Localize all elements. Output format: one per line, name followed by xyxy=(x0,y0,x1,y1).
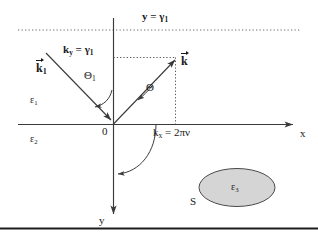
epsilon3-label-sub: 3 xyxy=(235,186,238,193)
incident-vector-label-sub: 1 xyxy=(43,67,47,76)
x-axis-label: x xyxy=(300,128,306,139)
gamma1-line-label-sub: 1 xyxy=(164,15,168,24)
kx-label: kx = 2πν xyxy=(153,127,190,139)
epsilon1-label: ε1 xyxy=(30,95,38,106)
ky-label: ky = γ1 xyxy=(63,44,94,56)
x-axis-label-text: x xyxy=(300,127,306,139)
theta1-label-text: Θ xyxy=(84,69,92,81)
outgoing-vector-label: k xyxy=(181,55,188,67)
y-axis-label: y xyxy=(99,215,105,226)
gamma1-line-label-text: y = γ xyxy=(142,10,164,22)
epsilon2-label-sub: 2 xyxy=(34,138,37,145)
theta-label-text: Θ xyxy=(146,81,154,93)
incident-vector-label: k1 xyxy=(36,62,47,76)
origin-label-text: 0 xyxy=(102,125,108,137)
theta-label: Θ xyxy=(146,82,154,93)
theta1-arc-arrow xyxy=(95,90,112,107)
theta1-label: Θ1 xyxy=(84,70,96,82)
ky-label-rhs-sub: 1 xyxy=(90,48,94,57)
y-axis-label-text: y xyxy=(99,214,105,226)
gamma1-line-label: y = γ1 xyxy=(142,11,168,23)
diagram-canvas xyxy=(0,0,318,237)
theta-sweep-arc xyxy=(118,124,156,174)
origin-label: 0 xyxy=(102,126,108,137)
outgoing-wave-vector xyxy=(114,60,176,124)
epsilon2-label: ε2 xyxy=(30,134,38,145)
vector-arrow-head-icon xyxy=(41,58,44,62)
incident-wave-vector xyxy=(46,53,111,120)
ky-label-rhs: = γ xyxy=(73,43,90,55)
vector-arrow-head-icon xyxy=(186,51,189,55)
physics-figure: y = γ1 ky = γ1 k1 Θ1 k Θ ε1 ε2 0 kx = 2π… xyxy=(0,0,318,237)
incident-vector-glyph: k xyxy=(36,62,43,74)
theta1-label-sub: 1 xyxy=(92,74,96,83)
region-s-label-text: S xyxy=(190,195,196,207)
outgoing-vector-label-text: k xyxy=(181,54,188,68)
outgoing-vector-glyph: k xyxy=(181,55,188,67)
kx-label-rhs: = 2πν xyxy=(162,126,190,138)
incident-vector-label-text: k xyxy=(36,61,43,75)
region-s-label: S xyxy=(190,196,196,207)
epsilon3-label: ε3 xyxy=(231,182,239,193)
epsilon1-label-sub: 1 xyxy=(34,99,37,106)
